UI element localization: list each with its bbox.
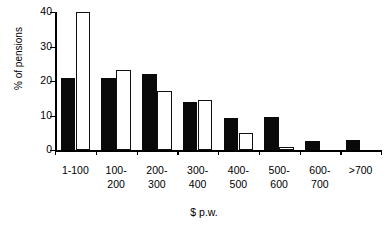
x-tick-label-100-200: 100- 200: [96, 164, 137, 191]
bar-white-100-200: [116, 70, 131, 150]
y-axis-title: % of pensions: [13, 0, 24, 119]
bar-white-300-400: [198, 100, 213, 150]
y-tick-label: 40: [40, 5, 52, 18]
x-tick-label-400-500: 400- 500: [218, 164, 259, 191]
bar-white-1-100: [76, 12, 91, 150]
x-tick-mark: [300, 150, 301, 155]
bar-black-600-700: [305, 141, 320, 150]
x-tick-mark: [177, 150, 178, 155]
y-axis-line: [55, 12, 57, 150]
x-tick-label-200-300: 200- 300: [137, 164, 178, 191]
bar-chart: % of pensions 010203040 1-100100- 200200…: [0, 0, 386, 234]
x-tick-label-600-700: 600- 700: [300, 164, 341, 191]
y-tick-label: 20: [40, 74, 52, 87]
bar-black->700: [346, 140, 361, 150]
x-tick-mark: [381, 150, 382, 155]
bar-black-200-300: [142, 74, 157, 150]
x-tick-label-300-400: 300- 400: [177, 164, 218, 191]
bar-black-400-500: [224, 118, 239, 150]
bar-white-200-300: [157, 91, 172, 150]
bar-black-100-200: [101, 78, 116, 150]
x-axis-title: $ p.w.: [0, 206, 386, 218]
x-tick-mark: [96, 150, 97, 155]
x-tick-mark: [55, 150, 56, 155]
bar-white-500-600: [279, 147, 294, 150]
bar-black-1-100: [61, 78, 76, 150]
x-tick-label-1-100: 1-100: [55, 164, 96, 178]
bar-black-300-400: [183, 102, 198, 150]
x-tick-mark: [137, 150, 138, 155]
x-tick-mark: [218, 150, 219, 155]
bar-black-500-600: [264, 117, 279, 150]
y-tick-label: 10: [40, 109, 52, 122]
x-tick-label-500-600: 500- 600: [259, 164, 300, 191]
x-axis-title-text: $ p.w.: [168, 206, 217, 218]
y-tick-label: 0: [46, 143, 52, 156]
x-tick-mark: [259, 150, 260, 155]
x-tick-mark: [340, 150, 341, 155]
y-tick-label: 30: [40, 40, 52, 53]
plot-area: 010203040 1-100100- 200200- 300300- 4004…: [55, 12, 381, 150]
bar-white-400-500: [239, 133, 254, 150]
x-tick-label->700: >700: [340, 164, 381, 178]
